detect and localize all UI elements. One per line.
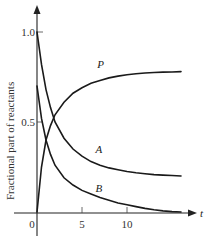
x-axis-arrow-icon [188,210,197,217]
y-tick-label: 1.0 [21,26,35,38]
curve-label-a: A [95,143,103,155]
x-tick-label: 10 [122,218,134,230]
reaction-chart: 0.51.0 0510 ABP t Fractional part of rea… [0,0,208,244]
curve-p [37,72,181,212]
x-tick-label: 0 [29,218,35,230]
x-axis-label: t [200,207,204,219]
x-ticks: 0510 [29,207,133,230]
curve-b [37,86,181,212]
curve-label-p: P [96,58,104,70]
curve-a [37,32,181,176]
y-ticks: 0.51.0 [21,26,43,128]
x-tick-label: 5 [79,218,85,230]
y-axis-label: Fractional part of reactants [4,82,16,200]
curve-label-b: B [96,182,103,194]
curves: ABP [37,32,181,212]
y-axis-arrow-icon [34,5,41,14]
y-tick-label: 0.5 [21,116,35,128]
